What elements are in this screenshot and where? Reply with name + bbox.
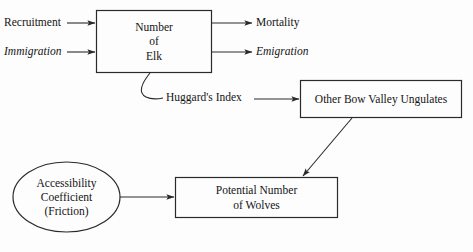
- node-shape-wolves: [176, 178, 338, 218]
- diagram-vector-layer: [0, 0, 473, 252]
- edge-label-mortality: Mortality: [256, 17, 299, 29]
- node-shape-elk: [97, 11, 212, 73]
- node-shape-accessibility: [13, 162, 120, 232]
- edge-label-recruitment: Recruitment: [4, 17, 61, 29]
- arrow-ungulates-to-wolves: [303, 118, 352, 176]
- edge-label-emigration: Emigration: [256, 46, 308, 58]
- arrow-elk-to-huggards-index: [141, 73, 163, 99]
- edge-label-huggards-index: Huggard's Index: [166, 92, 242, 104]
- diagram-canvas: Number of Elk Other Bow Valley Ungulates…: [0, 0, 473, 252]
- node-shape-ungulates: [301, 81, 462, 118]
- edge-label-immigration: Immigration: [4, 46, 62, 58]
